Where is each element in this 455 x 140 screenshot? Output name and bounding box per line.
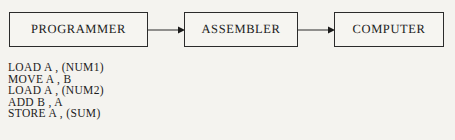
arrow-right-icon <box>297 23 335 37</box>
code-line: LOAD A , (NUM1) <box>8 62 238 74</box>
flow-box-assembler: ASSEMBLER <box>184 12 298 47</box>
arrow-right-icon <box>148 23 185 37</box>
arrow-programmer-to-assembler <box>148 23 185 37</box>
flow-box-programmer: PROGRAMMER <box>9 12 148 47</box>
diagram-page: PROGRAMMER ASSEMBLER COMPUTER LOAD A , (… <box>0 0 455 140</box>
flow-box-computer-label: COMPUTER <box>353 23 426 36</box>
flow-box-computer: COMPUTER <box>334 12 444 47</box>
assembly-code-listing: LOAD A , (NUM1) MOVE A , B LOAD A , (NUM… <box>8 62 238 120</box>
arrow-assembler-to-computer <box>297 23 335 37</box>
code-line: STORE A , (SUM) <box>8 108 238 120</box>
flow-box-programmer-label: PROGRAMMER <box>31 23 126 36</box>
flow-box-assembler-label: ASSEMBLER <box>201 23 280 36</box>
